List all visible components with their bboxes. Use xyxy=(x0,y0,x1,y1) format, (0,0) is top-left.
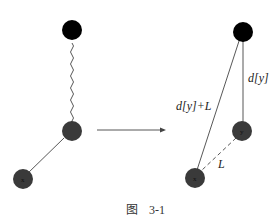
label-L: L xyxy=(217,157,225,171)
left-y-node xyxy=(62,121,82,141)
wavy-edge-root-y xyxy=(71,43,74,127)
caption-prefix: 图 xyxy=(126,203,138,217)
edge-y-x xyxy=(27,138,64,174)
right-x-label: x xyxy=(193,175,197,183)
right-root-node xyxy=(233,22,253,42)
label-dy-plus-L: d[y]+L xyxy=(176,99,212,113)
right-y-label: y xyxy=(240,128,244,136)
caption-number: 3-1 xyxy=(149,203,165,217)
label-dy: d[y] xyxy=(248,71,269,85)
figure-canvas: x y x d[y] d[y]+L L 图 3-1 xyxy=(0,0,279,223)
left-x-label: x xyxy=(21,176,25,184)
left-root-node xyxy=(62,20,82,40)
transform-arrow xyxy=(97,128,166,133)
right-diagram: y x d[y] d[y]+L L xyxy=(176,22,269,188)
left-diagram: x xyxy=(13,20,82,189)
